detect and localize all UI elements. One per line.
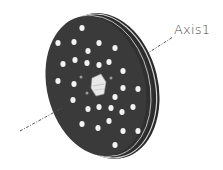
cad-figure: Axis1	[0, 0, 223, 170]
axis-label: Axis1	[174, 22, 210, 37]
